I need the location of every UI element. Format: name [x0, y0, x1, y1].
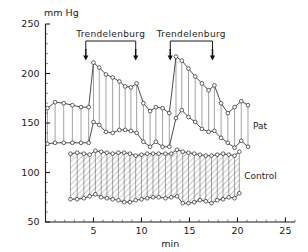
data-point-marker [94, 192, 98, 196]
data-point-marker [69, 197, 73, 201]
data-point-marker [145, 196, 149, 200]
data-point-marker [87, 141, 91, 145]
data-point-marker [175, 194, 179, 198]
trendelenburg-second-arrow-head [168, 56, 173, 61]
data-point-marker [233, 154, 237, 158]
data-point-marker [151, 152, 155, 156]
data-point-marker [105, 196, 109, 200]
trendelenburg-annotations: TrendelenburgTrendelenburg [75, 29, 226, 61]
data-point-marker [181, 201, 185, 205]
data-point-marker [210, 201, 214, 205]
data-point-marker [75, 151, 79, 155]
data-point-marker [92, 61, 96, 65]
data-point-marker [215, 153, 219, 157]
trendelenburg-first-label: Trendelenburg [75, 29, 145, 39]
data-point-marker [161, 145, 165, 149]
data-point-marker [129, 129, 133, 133]
data-point-marker [219, 136, 223, 140]
data-point-marker [79, 141, 83, 145]
x-tick-label: 25 [279, 225, 291, 236]
trendelenburg-first-bracket [86, 41, 136, 50]
data-point-marker [192, 200, 196, 204]
data-point-marker [88, 194, 92, 198]
data-point-marker [200, 82, 204, 86]
data-point-marker [221, 197, 225, 201]
data-point-marker [71, 141, 75, 145]
data-point-marker [167, 145, 171, 149]
data-point-marker [53, 141, 57, 145]
trendelenburg-first-arrow-head [83, 56, 88, 61]
data-point-marker [99, 150, 103, 154]
data-point-marker [213, 129, 217, 133]
data-point-marker [239, 99, 243, 103]
data-point-marker [187, 115, 191, 119]
data-point-marker [164, 152, 168, 156]
chart-plot: 50100150200250510152025 TrendelenburgTre… [0, 0, 308, 252]
data-point-marker [233, 105, 237, 109]
data-point-marker [164, 196, 168, 200]
data-point-marker [226, 111, 230, 115]
data-point-marker [122, 200, 126, 204]
data-point-marker [92, 120, 96, 124]
y-tick-label: 200 [21, 68, 39, 79]
trendelenburg-second-bracket [170, 41, 212, 50]
data-point-marker [175, 148, 179, 152]
data-point-marker [99, 195, 103, 199]
curve-pat-diastolic [47, 110, 248, 148]
data-point-marker [180, 108, 184, 112]
data-point-marker [82, 152, 86, 156]
data-point-marker [204, 154, 208, 158]
curve-pat-systolic [47, 57, 248, 113]
y-tick-label: 250 [21, 18, 39, 29]
data-point-marker [169, 152, 173, 156]
data-point-marker [111, 152, 115, 156]
data-point-marker [187, 67, 191, 71]
data-point-marker [193, 120, 197, 124]
data-point-marker [204, 199, 208, 203]
data-point-marker [117, 151, 121, 155]
data-point-marker [148, 145, 152, 149]
data-point-marker [75, 197, 79, 201]
data-point-marker [140, 197, 144, 201]
data-point-marker [157, 195, 161, 199]
data-point-marker [123, 128, 127, 132]
data-point-marker [219, 101, 223, 105]
data-point-marker [233, 196, 237, 200]
trendelenburg-first-arrow-head [133, 56, 138, 61]
data-point-marker [118, 80, 122, 84]
data-point-marker [94, 149, 98, 153]
data-point-marker [128, 200, 132, 204]
x-tick-label: 10 [135, 225, 147, 236]
data-point-marker [148, 109, 152, 113]
data-point-marker [111, 76, 115, 80]
data-point-marker [105, 151, 109, 155]
data-point-marker [87, 105, 91, 109]
data-point-marker [154, 140, 158, 144]
data-point-marker [215, 198, 219, 202]
data-point-marker [145, 152, 149, 156]
data-point-marker [181, 150, 185, 154]
data-point-marker [198, 153, 202, 157]
data-point-marker [140, 153, 144, 157]
x-tick-label: 15 [183, 225, 195, 236]
data-point-marker [111, 131, 115, 135]
data-point-marker [69, 152, 73, 156]
data-point-marker [154, 105, 158, 109]
data-point-marker [221, 152, 225, 156]
data-point-marker [62, 101, 66, 105]
data-point-marker [193, 75, 197, 79]
data-point-marker [129, 86, 133, 90]
data-point-marker [207, 130, 211, 134]
data-point-marker [233, 146, 237, 150]
chart-figure: 50100150200250510152025 TrendelenburgTre… [0, 0, 308, 252]
data-point-marker [104, 130, 108, 134]
data-point-marker [239, 139, 243, 143]
series-label-control: Control [244, 171, 277, 181]
data-point-marker [79, 105, 83, 109]
data-point-marker [46, 142, 50, 146]
data-point-marker [174, 55, 178, 59]
data-point-marker [210, 154, 214, 158]
data-point-marker [246, 103, 250, 107]
data-point-marker [237, 191, 241, 195]
data-point-marker [53, 100, 57, 104]
